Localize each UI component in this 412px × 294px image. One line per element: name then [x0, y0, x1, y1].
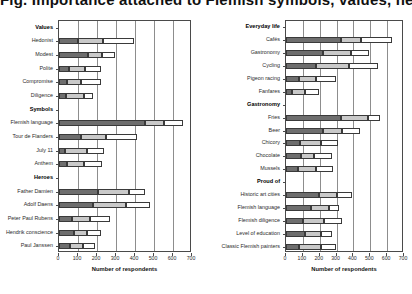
bar-segment: [299, 244, 321, 250]
bar-segment: [70, 243, 82, 249]
bar: [286, 231, 332, 237]
bar-segment: [59, 216, 72, 222]
bar-segment: [305, 231, 322, 237]
bar-segment: [106, 134, 136, 140]
bar-segment: [67, 79, 81, 85]
y-tick: [56, 110, 59, 111]
bar-segment: [72, 216, 90, 222]
bar-segment: [59, 134, 81, 140]
bar-segment: [286, 153, 301, 159]
category-label: July 11: [36, 147, 53, 153]
bar-segment: [337, 192, 352, 198]
bar-segment: [341, 115, 368, 121]
category-label: Gastronomy: [251, 49, 280, 55]
bar-segment: [129, 189, 145, 195]
bar-segment: [316, 63, 349, 69]
bar-segment: [341, 37, 361, 43]
bar-segment: [316, 76, 335, 82]
bar-segment: [286, 37, 341, 43]
bar-segment: [87, 230, 101, 236]
bar: [286, 218, 342, 224]
bar: [59, 66, 101, 72]
x-axis-label: Number of respondents: [58, 266, 191, 272]
bar: [59, 93, 93, 99]
bar-segment: [351, 50, 369, 56]
x-tick-label: 500: [365, 255, 374, 261]
bar-segment: [286, 231, 305, 237]
bar-segment: [323, 50, 351, 56]
bar: [286, 140, 338, 146]
bar-segment: [298, 166, 317, 172]
bar-segment: [368, 115, 381, 121]
x-tick-label: 300: [111, 255, 120, 261]
bar-segment: [59, 161, 67, 167]
x-tick-label: 0: [284, 255, 287, 261]
gridline: [173, 21, 174, 251]
bar-segment: [103, 38, 134, 44]
category-label: Flemish language: [10, 119, 53, 125]
group-header-label: Gastronomy: [247, 101, 280, 107]
bar: [59, 189, 145, 195]
bar: [59, 216, 110, 222]
y-tick: [283, 27, 286, 28]
bar-segment: [66, 93, 84, 99]
bar: [286, 63, 378, 69]
category-label: Level of education: [236, 230, 280, 236]
panel-left: ValuesHedonistModestPoliteCompromiseDili…: [0, 14, 206, 286]
category-label: Hedonist: [32, 37, 53, 43]
gridline: [154, 21, 155, 251]
bar-segment: [98, 189, 129, 195]
category-label: Beer: [269, 127, 280, 133]
group-header-label: Proud of: [257, 178, 280, 184]
category-label: Mussels: [260, 165, 280, 171]
bar: [286, 192, 352, 198]
bar-segment: [316, 166, 333, 172]
figure-root: Fig. Importance attached to Flemish symb…: [0, 0, 412, 294]
bar-segment: [319, 192, 337, 198]
bar-segment: [59, 38, 78, 44]
category-label: Hendrik conscience: [6, 229, 53, 235]
category-label: Fanfares: [259, 88, 280, 94]
bar-segment: [87, 148, 104, 154]
bar-segment: [90, 216, 110, 222]
bar: [286, 89, 319, 95]
bar-segment: [69, 66, 84, 72]
bar-segment: [286, 205, 311, 211]
category-label: Cafés: [266, 36, 280, 42]
category-label: Adolf Daens: [24, 201, 53, 207]
bar: [59, 134, 137, 140]
bar: [59, 120, 183, 126]
category-label: Fries: [268, 114, 280, 120]
bar-segment: [164, 120, 183, 126]
category-label: Flemish diligence: [238, 217, 280, 223]
bar-segment: [65, 148, 87, 154]
bar-segment: [59, 120, 145, 126]
bar-segment: [286, 76, 299, 82]
bar-segment: [59, 79, 67, 85]
bar-segment: [303, 218, 324, 224]
bar-segment: [59, 189, 98, 195]
bar-segment: [83, 243, 95, 249]
bar-segment: [59, 66, 69, 72]
bar: [286, 76, 336, 82]
bar-segment: [286, 50, 323, 56]
bar-segment: [321, 140, 339, 146]
bar-segment: [321, 231, 332, 237]
bar-segment: [301, 153, 314, 159]
bar-segment: [286, 140, 300, 146]
category-label: Polite: [40, 65, 54, 71]
bar-segment: [74, 230, 86, 236]
bar-segment: [59, 202, 93, 208]
bar: [286, 166, 333, 172]
x-tick-label: 100: [298, 255, 307, 261]
category-labels-left: ValuesHedonistModestPoliteCompromiseDili…: [0, 20, 57, 252]
plot-area-left: [58, 20, 191, 252]
x-tick-label: 600: [382, 255, 391, 261]
bar-segment: [292, 89, 305, 95]
bar-segment: [59, 243, 70, 249]
category-label: Paul Janssen: [21, 242, 53, 248]
category-label: Diligence: [31, 92, 53, 98]
bar-segment: [93, 202, 126, 208]
category-label: Modest: [35, 51, 53, 57]
bar: [286, 244, 336, 250]
